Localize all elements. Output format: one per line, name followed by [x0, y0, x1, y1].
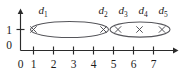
data-point-label-d1: d1 — [38, 4, 48, 19]
x-tick-label-6: 6 — [131, 58, 137, 70]
data-point-label-d5: d5 — [158, 4, 168, 19]
data-point-label-d3-subscript: 3 — [124, 10, 128, 19]
x-tick-label-7: 7 — [151, 58, 157, 70]
y-axis-tick-labels: 1 0 — [6, 24, 12, 51]
data-point-label-d5-subscript: 5 — [164, 10, 168, 19]
data-point-label-d1-subscript: 1 — [44, 10, 48, 19]
data-point-label-d4: d4 — [138, 4, 148, 19]
x-axis-arrowhead — [173, 48, 179, 54]
x-tick-label-5: 5 — [111, 58, 117, 70]
cluster-annotations — [31, 22, 171, 38]
y-axis-arrowhead — [18, 9, 24, 15]
data-point-d5-marker — [159, 27, 165, 33]
x-tick-label-2: 2 — [51, 58, 57, 70]
figure-canvas: 1 0 0 1 2 3 4 5 6 7 d1 d2 d3 d4 — [0, 0, 180, 73]
data-point-markers — [31, 27, 165, 33]
cluster-number-line-figure: 1 0 0 1 2 3 4 5 6 7 d1 d2 d3 d4 — [0, 0, 180, 73]
data-point-d2-marker — [101, 27, 107, 33]
data-point-label-d2: d2 — [98, 4, 108, 19]
cluster-1-ellipse — [31, 22, 109, 38]
data-point-d4-marker — [137, 27, 143, 33]
x-tick-label-4: 4 — [91, 58, 97, 70]
data-point-label-d4-subscript: 4 — [144, 10, 148, 19]
data-point-labels: d1 d2 d3 d4 d5 — [38, 4, 168, 19]
data-point-d1-marker — [31, 27, 37, 33]
x-tick-label-0: 0 — [18, 58, 24, 70]
x-axis-tick-labels: 0 1 2 3 4 5 6 7 — [18, 58, 157, 70]
data-point-label-d3: d3 — [118, 4, 128, 19]
x-tick-label-3: 3 — [71, 58, 77, 70]
y-tick-label-1: 1 — [6, 24, 12, 36]
x-tick-label-1: 1 — [31, 58, 37, 70]
y-tick-label-0: 0 — [6, 39, 12, 51]
data-point-d3-marker — [115, 27, 121, 33]
data-point-label-d2-subscript: 2 — [104, 10, 108, 19]
